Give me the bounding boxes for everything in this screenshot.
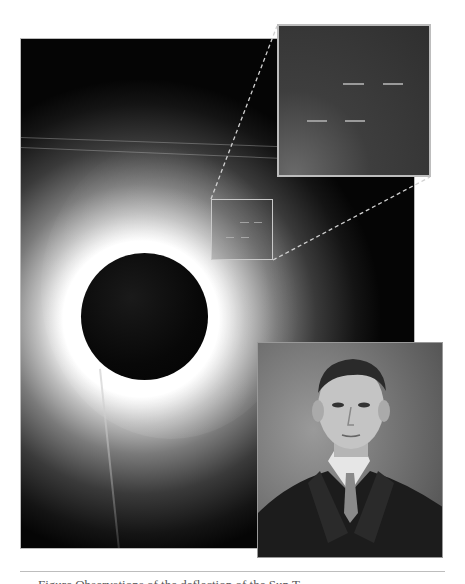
portrait-photograph [257,342,443,558]
caption-divider [20,571,445,572]
figure-caption: Figure Observations of the deflection of… [38,577,458,584]
